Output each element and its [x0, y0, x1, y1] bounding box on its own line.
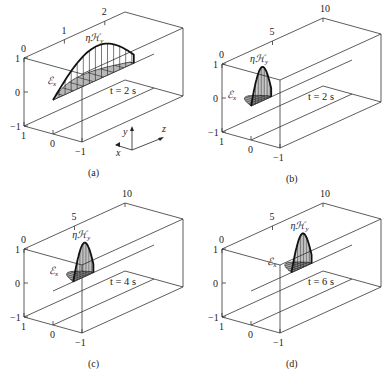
z-tick-label: 5 — [270, 211, 275, 222]
z-axis-line — [53, 245, 154, 291]
box-edge — [280, 287, 381, 333]
z-tick-label: 1 — [61, 25, 66, 36]
h-field-label: ηℋy — [250, 53, 269, 66]
box-edge — [24, 249, 82, 265]
z-direction-arrow — [132, 138, 162, 150]
z-axis-floor-line — [251, 279, 352, 325]
y-arrowhead — [130, 126, 134, 131]
box-edge — [280, 102, 381, 148]
y-tick-label: 1 — [213, 59, 218, 70]
z-arrowhead — [158, 137, 164, 141]
y-tick-label: −1 — [10, 121, 21, 132]
z-tick-label: 0 — [21, 234, 26, 245]
box-edge — [24, 12, 125, 58]
y-tick-label: 0 — [213, 93, 218, 104]
e-field-label-sub: x — [52, 80, 57, 88]
z-tick-label: 5 — [72, 211, 77, 222]
box-edge — [323, 203, 381, 219]
coordinate-axes-indicator: yzx — [115, 123, 166, 158]
x-tick-label: 0 — [50, 329, 55, 340]
y-tick-label: −1 — [208, 127, 219, 138]
y-tick-label: 0 — [213, 278, 218, 289]
box-edge — [280, 34, 381, 80]
y-tick-label: 1 — [15, 244, 20, 255]
e-field-label-sub: x — [232, 94, 237, 102]
box-edge — [82, 287, 183, 333]
time-label: t = 2 s — [308, 91, 334, 102]
h-field-label-sub: y — [86, 234, 91, 242]
x-tick-label: −1 — [273, 337, 284, 348]
box-edge — [125, 203, 183, 219]
e-field-label-sub: x — [272, 261, 277, 269]
e-field-label: ℰx — [49, 265, 59, 278]
panel-caption: (b) — [286, 173, 298, 185]
x-tick-label: −1 — [273, 152, 284, 163]
z-tick-label: 5 — [270, 26, 275, 37]
x-tick-label: 0 — [50, 138, 55, 149]
panel-d: 051010−110−1ηℋyℰxt = 6 s(d) — [208, 188, 381, 369]
panel-a: 01210−110−1ηℋyℰxt = 2 s(a)yzx — [10, 6, 183, 179]
h-field-label-sub: y — [264, 58, 269, 66]
box-edge — [323, 18, 381, 34]
x-tick-label: 1 — [21, 321, 26, 332]
box-edge — [222, 64, 280, 80]
z-tick-label: 0 — [219, 234, 224, 245]
x-tick-label: 1 — [21, 130, 26, 141]
y-tick-label: −1 — [208, 312, 219, 323]
z-axis-floor-line — [53, 88, 154, 134]
box-edge — [24, 58, 82, 74]
z-tick-label: 2 — [102, 6, 107, 17]
z-axis-floor-line — [53, 279, 154, 325]
wave-propagation-figure: 01210−110−1ηℋyℰxt = 2 s(a)yzx 051010−110… — [0, 0, 382, 369]
y-tick-label: 1 — [15, 53, 20, 64]
e-field-label: ℰx — [267, 256, 277, 269]
x-tick-label: 1 — [219, 136, 224, 147]
e-field-label: ℰx — [227, 89, 237, 102]
panel-caption: (d) — [286, 358, 298, 369]
z-tick-label: 10 — [122, 188, 132, 199]
x-axis-name: x — [115, 147, 121, 158]
h-field-label: ηℋy — [85, 32, 104, 45]
y-tick-label: 0 — [15, 278, 20, 289]
box-edge — [82, 96, 183, 142]
time-label: t = 6 s — [308, 276, 334, 287]
time-label: t = 4 s — [110, 276, 136, 287]
h-field-label: ηℋy — [72, 229, 91, 242]
z-tick-label: 0 — [21, 43, 26, 54]
y-tick-label: 0 — [15, 87, 20, 98]
panel-c: 051010−110−1ηℋyℰxt = 4 s(c) — [10, 188, 183, 369]
z-tick-label: 0 — [219, 49, 224, 60]
x-tick-label: −1 — [75, 146, 86, 157]
z-tick-label: 10 — [320, 188, 330, 199]
x-tick-label: 0 — [248, 329, 253, 340]
y-axis-name: y — [122, 126, 128, 137]
z-tick-label: 10 — [320, 3, 330, 14]
x-tick-label: 1 — [219, 321, 224, 332]
y-tick-label: −1 — [10, 312, 21, 323]
z-axis-name: z — [161, 123, 166, 134]
x-tick-label: −1 — [75, 337, 86, 348]
panel-caption: (c) — [88, 358, 99, 369]
x-tick-label: 0 — [248, 144, 253, 155]
h-field-label-sub: y — [304, 225, 309, 233]
y-tick-label: 1 — [213, 244, 218, 255]
box-edge — [82, 219, 183, 265]
h-field-label: ηℋy — [291, 220, 310, 233]
e-field-label: ℰx — [47, 75, 57, 88]
panel-b: 051010−110−1ηℋyℰxt = 2 s(b) — [208, 3, 381, 185]
e-field-label-sub: x — [54, 270, 59, 278]
z-axis-floor-line — [251, 94, 352, 140]
time-label: t = 2 s — [110, 85, 136, 96]
box-edge — [125, 12, 183, 28]
panel-caption: (a) — [88, 167, 99, 179]
